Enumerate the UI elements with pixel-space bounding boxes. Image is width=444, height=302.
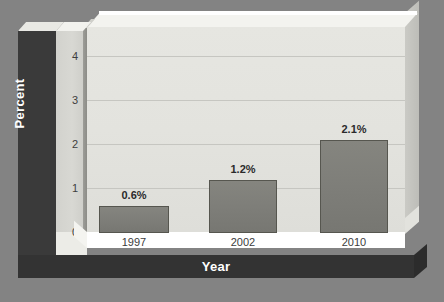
bar-2002: [209, 180, 277, 233]
category-label-2002: 2002: [209, 236, 277, 248]
gridline-3: [87, 100, 405, 101]
y-axis-title: Percent: [12, 24, 27, 184]
x-axis-title: Year: [18, 259, 414, 274]
y-tick-label-2: 2: [56, 138, 78, 150]
y-tick-label-1: 1: [56, 182, 78, 194]
y-tick-label-3: 3: [56, 94, 78, 106]
bar-label-1997: 0.6%: [99, 189, 169, 201]
bar-label-2002: 1.2%: [209, 163, 277, 175]
axis-wall-edge: [83, 27, 87, 255]
plot-wall-right-side: [405, 1, 419, 232]
chart-canvas: 0.6% 1.2% 2.1% 1997 2002 2010 0 1 2 3 4 …: [0, 0, 444, 302]
frame-bottom-right-bevel: [414, 244, 427, 278]
bar-2010: [320, 140, 388, 233]
bar-1997: [99, 206, 169, 233]
bar-label-2010: 2.1%: [320, 123, 388, 135]
plot-wall-top-bevel: [87, 13, 418, 27]
y-tick-label-4: 4: [56, 50, 78, 62]
plot-wall-top-cap: [99, 11, 417, 15]
gridline-4: [87, 56, 405, 57]
category-label-2010: 2010: [320, 236, 388, 248]
category-label-1997: 1997: [99, 236, 169, 248]
